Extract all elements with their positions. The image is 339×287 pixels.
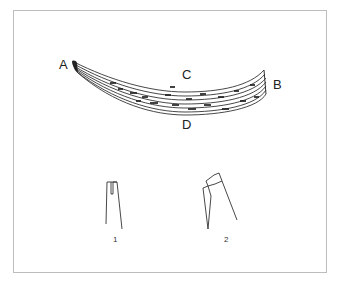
figure-number-2: 2 (224, 236, 228, 244)
figure-number-1: 1 (113, 236, 117, 244)
label-c: C (182, 68, 191, 81)
curved-horn-drawing (0, 0, 339, 287)
detail-1-drawing (106, 182, 122, 229)
label-a: A (59, 58, 68, 71)
label-d: D (182, 118, 191, 131)
label-b: B (273, 78, 282, 91)
detail-2-drawing (203, 173, 237, 229)
